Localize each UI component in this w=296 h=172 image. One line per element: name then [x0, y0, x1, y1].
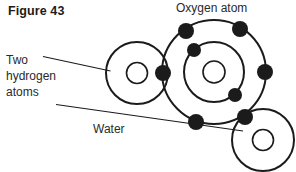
label-hydrogen-line-1: Two	[6, 52, 56, 68]
leader-line-water	[56, 105, 243, 132]
hydrogen-left-nucleus	[127, 63, 148, 84]
electron-dot	[188, 114, 204, 130]
figure-canvas: Figure 43 Oxygen atom Two hydrogen atoms…	[0, 0, 296, 172]
label-hydrogen-line-3: atoms	[6, 84, 56, 100]
label-two-hydrogen-atoms: Two hydrogen atoms	[6, 52, 56, 100]
oxygen-nucleus	[203, 61, 225, 83]
electron-dot	[187, 43, 201, 57]
label-oxygen-atom: Oxygen atom	[176, 1, 247, 16]
label-hydrogen-line-2: hydrogen	[6, 68, 56, 84]
electron-shared-hydrogen-right	[237, 109, 253, 125]
oxygen-outer-electrons	[155, 21, 273, 130]
electron-dot	[228, 88, 242, 102]
oxygen-inner-electrons	[187, 43, 242, 102]
oxygen-outer-shell	[162, 20, 266, 124]
electron-dot	[232, 21, 248, 37]
hydrogen-right-nucleus	[253, 130, 274, 151]
atom-oxygen	[162, 20, 266, 124]
electron-dot	[257, 64, 273, 80]
figure-title: Figure 43	[8, 4, 64, 18]
electron-shared-hydrogen-left	[155, 65, 171, 81]
electron-dot	[178, 23, 194, 39]
label-water: Water	[93, 122, 125, 137]
